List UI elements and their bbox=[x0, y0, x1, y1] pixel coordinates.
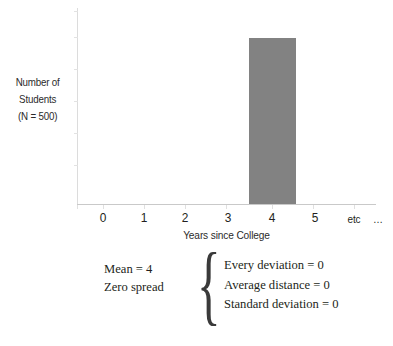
x-tick-label-ellipsis: … bbox=[362, 213, 393, 225]
x-tick-label-2: 2 bbox=[169, 211, 201, 225]
annotation-block: Mean = 4 Zero spread { Every deviation =… bbox=[0, 256, 393, 346]
annotation-spread: Zero spread bbox=[104, 278, 164, 296]
y-axis-tick bbox=[74, 11, 78, 12]
x-axis-tick bbox=[185, 205, 186, 209]
annotation-every-deviation: Every deviation = 0 bbox=[224, 256, 338, 276]
annotation-average-distance: Average distance = 0 bbox=[224, 276, 338, 296]
y-axis-tick bbox=[74, 165, 78, 166]
annotation-mean: Mean = 4 bbox=[104, 260, 164, 278]
x-tick-label-3: 3 bbox=[212, 211, 244, 225]
x-tick-label-0: 0 bbox=[87, 211, 119, 225]
y-axis-label: Number of Students (N = 500) bbox=[6, 74, 69, 125]
y-axis-label-line-1: Number of bbox=[6, 74, 69, 91]
y-axis-label-line-2: Students bbox=[6, 91, 69, 108]
x-axis-tick bbox=[103, 205, 104, 209]
bar-category-4 bbox=[249, 38, 296, 204]
y-axis-label-line-3: (N = 500) bbox=[6, 108, 69, 125]
y-axis-tick bbox=[74, 101, 78, 102]
plot-area: 100% 0 1 2 3 4 5 etc … bbox=[77, 8, 376, 205]
curly-brace-icon: { bbox=[197, 240, 221, 330]
x-axis-tick bbox=[226, 205, 227, 209]
annotation-left: Mean = 4 Zero spread bbox=[104, 260, 164, 296]
x-tick-label-4: 4 bbox=[256, 211, 288, 225]
y-axis-tick bbox=[74, 133, 78, 134]
y-axis-tick bbox=[74, 69, 78, 70]
x-axis-tick bbox=[313, 205, 314, 209]
x-axis-tick bbox=[77, 205, 78, 209]
x-axis-tick bbox=[272, 205, 273, 209]
y-axis-tick bbox=[74, 37, 78, 38]
x-axis-label: Years since College bbox=[86, 229, 367, 241]
x-tick-label-1: 1 bbox=[128, 211, 160, 225]
x-axis-tick bbox=[144, 205, 145, 209]
x-axis-tick bbox=[354, 205, 355, 209]
annotation-standard-deviation: Standard deviation = 0 bbox=[224, 295, 338, 315]
bar-chart-figure: Number of Students (N = 500) 100% 0 1 2 … bbox=[0, 0, 393, 346]
annotation-right: Every deviation = 0 Average distance = 0… bbox=[224, 256, 338, 315]
x-tick-label-5: 5 bbox=[299, 211, 331, 225]
